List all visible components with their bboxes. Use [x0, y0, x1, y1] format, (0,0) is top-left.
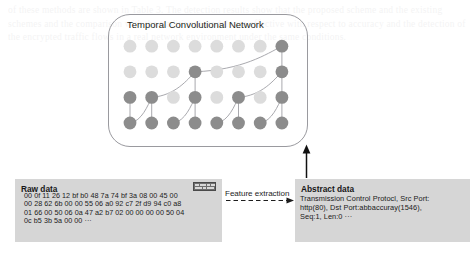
- tcn-node-inactive: [145, 65, 158, 78]
- abstract-line: Transmission Control Protocl, Src Port:: [300, 194, 466, 203]
- abstract-data-title: Abstract data: [301, 184, 354, 194]
- tcn-node-inactive: [210, 91, 223, 104]
- tcn-node-active: [124, 91, 137, 104]
- tcn-node-active: [254, 117, 267, 130]
- tcn-node-active: [124, 117, 137, 130]
- tcn-node-inactive: [210, 65, 223, 78]
- tcn-node-active: [276, 117, 289, 130]
- tcn-node-active: [145, 117, 158, 130]
- tcn-node-inactive: [210, 40, 223, 53]
- tcn-nodes: [124, 40, 289, 130]
- tcn-node-active: [167, 117, 180, 130]
- hex-line: 0c b5 3b 5a 00 00 ···: [24, 217, 220, 225]
- abstract-to-tcn-arrow: [303, 145, 311, 179]
- abstract-line: http(80), Dst Port:abbaccuray(1546),: [300, 203, 466, 212]
- abstract-line: Seq:1, Len:0 ···: [300, 212, 466, 221]
- tcn-node-active: [276, 91, 289, 104]
- tcn-node-inactive: [254, 91, 267, 104]
- tcn-node-inactive: [254, 40, 267, 53]
- tcn-node-active: [189, 65, 202, 78]
- tcn-node-active: [276, 65, 289, 78]
- tcn-node-inactive: [124, 65, 137, 78]
- feature-extraction-arrow: [226, 197, 294, 203]
- tcn-node-active: [189, 117, 202, 130]
- tcn-node-active: [232, 117, 245, 130]
- tcn-node-inactive: [145, 40, 158, 53]
- tcn-node-active: [232, 91, 245, 104]
- tcn-node-inactive: [167, 91, 180, 104]
- tcn-edges: [130, 46, 282, 123]
- packet-capture-thumbnail-icon: [193, 182, 216, 191]
- tcn-node-inactive: [167, 40, 180, 53]
- abstract-data-text: Transmission Control Protocl, Src Port: …: [300, 194, 466, 221]
- tcn-node-inactive: [189, 40, 202, 53]
- raw-data-hex-dump: 00 0f 11 26 12 bf b0 48 7a 74 bf 3a 08 0…: [24, 192, 220, 225]
- tcn-node-active: [276, 40, 289, 53]
- tcn-node-inactive: [167, 65, 180, 78]
- tcn-node-inactive: [254, 65, 267, 78]
- tcn-node-active: [145, 91, 158, 104]
- tcn-node-active: [189, 91, 202, 104]
- tcn-graph: [108, 14, 306, 145]
- tcn-node-inactive: [232, 40, 245, 53]
- tcn-node-inactive: [232, 65, 245, 78]
- tcn-node-active: [210, 117, 223, 130]
- feature-extraction-label: Feature extraction: [225, 189, 289, 198]
- tcn-node-inactive: [124, 40, 137, 53]
- figure-root: of these methods are shown in Table 3. T…: [0, 0, 476, 254]
